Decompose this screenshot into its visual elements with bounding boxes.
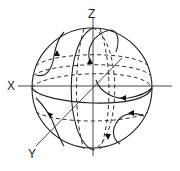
meridian-back — [93, 28, 115, 150]
sphere-diagram: Z X Y — [0, 0, 180, 171]
arrow-icon — [87, 58, 93, 64]
x-axis-label: X — [7, 79, 15, 93]
equator-front — [32, 88, 152, 103]
sphere-outline — [32, 28, 152, 148]
trajectory-right-center — [96, 80, 152, 98]
arrow-icon — [120, 95, 126, 101]
y-axis-label: Y — [28, 147, 36, 161]
z-axis-label: Z — [88, 7, 95, 21]
latitude-mid — [33, 65, 151, 76]
trajectory-upper-left — [36, 32, 64, 76]
arrow-icon — [128, 110, 134, 116]
arrow-icon — [105, 134, 111, 140]
